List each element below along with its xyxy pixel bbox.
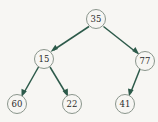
tree-node-left-left[interactable]: 60 [8, 95, 27, 114]
binary-search-tree-figure: 35 15 77 60 22 41 [0, 0, 158, 122]
arrowhead-icon [51, 45, 59, 52]
edge-line [104, 27, 137, 53]
node-value-label: 60 [12, 99, 23, 109]
tree-node-right-left[interactable]: 41 [116, 95, 135, 114]
edge-15-to-60 [22, 67, 39, 97]
edge-line [54, 27, 90, 51]
node-value-label: 41 [120, 99, 131, 109]
edge-line [131, 69, 141, 93]
node-value-label: 15 [39, 54, 50, 64]
edge-35-to-15 [51, 27, 90, 53]
tree-canvas: 35 15 77 60 22 41 [0, 0, 158, 122]
tree-node-left[interactable]: 15 [35, 50, 54, 69]
edge-15-to-22 [50, 67, 68, 97]
node-value-label: 22 [67, 99, 78, 109]
edge-35-to-77 [104, 27, 140, 56]
tree-node-right[interactable]: 77 [136, 52, 155, 71]
edge-line [50, 67, 66, 94]
edge-line [24, 67, 39, 94]
edge-77-to-41 [128, 69, 140, 97]
node-value-label: 35 [91, 14, 102, 24]
tree-nodes: 35 15 77 60 22 41 [8, 10, 155, 114]
node-value-label: 77 [140, 56, 151, 66]
tree-node-root[interactable]: 35 [87, 10, 106, 29]
tree-node-left-right[interactable]: 22 [63, 95, 82, 114]
